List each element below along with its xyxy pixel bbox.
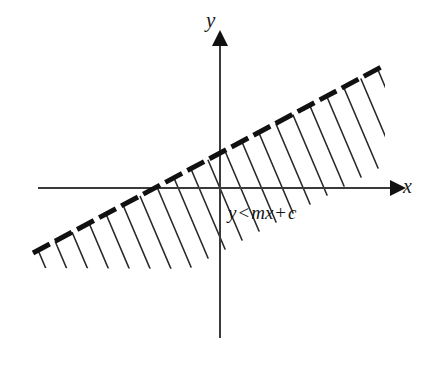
hatch-line: [55, 241, 89, 321]
hatch-line: [89, 223, 123, 303]
hatch-line: [344, 88, 378, 168]
hatch-line: [140, 196, 174, 276]
hatch-line: [327, 97, 361, 177]
hatch-line: [293, 115, 327, 195]
hatch-line: [157, 187, 191, 267]
inequality-slope-term: mx: [251, 202, 273, 223]
hatch-line: [38, 250, 72, 330]
inequality-constant: c: [288, 202, 296, 223]
shading-hatch-group: [38, 70, 412, 330]
y-axis-label: y: [206, 10, 215, 31]
hatch-line: [259, 133, 293, 213]
y-axis: [212, 30, 228, 338]
inequality-relation: <: [236, 202, 251, 223]
inequality-annotation: y<mx+c: [228, 203, 296, 222]
inequality-plus: +: [273, 202, 288, 223]
hatch-line: [123, 205, 157, 285]
hatch-line: [361, 79, 395, 159]
x-axis-label: x: [403, 176, 412, 196]
y-axis-arrowhead: [212, 30, 228, 46]
coordinate-diagram: [0, 0, 433, 367]
hatch-line: [174, 178, 208, 258]
hatch-line: [276, 124, 310, 204]
hatch-line: [378, 70, 412, 150]
hatch-line: [106, 214, 140, 294]
hatch-line: [310, 106, 344, 186]
hatch-line: [72, 232, 106, 312]
inequality-graph-figure: y x y<mx+c: [0, 0, 433, 367]
hatch-line: [208, 160, 242, 240]
